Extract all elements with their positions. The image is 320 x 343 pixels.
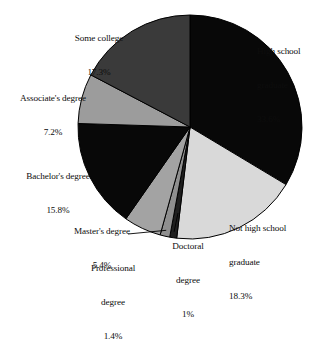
slice-value-doctoral-degree: 1% <box>160 309 216 320</box>
slice-label-line-1: Bachelor's degree <box>8 171 108 182</box>
slice-label-high-school-graduate: High school graduate 33.6% <box>257 23 319 148</box>
slice-label-line-2: graduate <box>229 257 319 268</box>
slice-value-high-school-graduate: 33.6% <box>257 114 319 125</box>
slice-label-line-1: Not high school <box>229 223 319 234</box>
slice-label-bachelors-degree: Bachelor's degree 15.8% <box>8 148 108 239</box>
slice-label-not-high-school-graduate: Not high school graduate 18.3% <box>229 200 319 325</box>
slice-label-line-2: degree <box>76 297 150 308</box>
slice-value-bachelors-degree: 15.8% <box>8 205 108 216</box>
slice-value-professional-degree: 1.4% <box>76 331 150 342</box>
slice-value-associates-degree: 7.2% <box>2 127 104 138</box>
slice-label-line-1: Some college <box>56 33 142 44</box>
slice-value-not-high-school-graduate: 18.3% <box>229 291 319 302</box>
slice-value-masters-degree: 5.4% <box>56 260 148 271</box>
slice-label-line-1: High school <box>257 46 319 57</box>
slice-label-line-1: Doctoral <box>160 241 216 252</box>
slice-label-some-college: Some college 17.3% <box>56 10 142 101</box>
slice-label-line-2: graduate <box>257 80 319 91</box>
slice-label-doctoral-degree: Doctoral degree 1% <box>160 218 216 343</box>
slice-label-line-2: degree <box>160 275 216 286</box>
slice-value-some-college: 17.3% <box>56 67 142 78</box>
